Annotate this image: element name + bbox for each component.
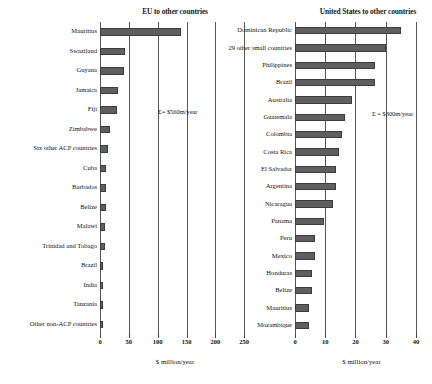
bar xyxy=(100,184,106,192)
category-label: Six other ACP countries xyxy=(33,145,97,152)
bar-row: Argentina xyxy=(295,183,428,191)
bar xyxy=(295,304,309,312)
category-label: Mexico xyxy=(272,253,292,260)
chart-panel-us: United States to other countries Dominic… xyxy=(196,0,432,384)
category-label: Tanzania xyxy=(73,301,97,308)
axis-tick-label: 0 xyxy=(98,338,101,345)
axis-tick-label: 0 xyxy=(293,338,296,345)
bar xyxy=(295,183,336,191)
bar xyxy=(100,204,106,212)
category-label: Jamaica xyxy=(76,87,97,94)
category-label: Other non-ACP countries xyxy=(30,321,97,328)
bar xyxy=(100,106,117,114)
category-label: Brazil xyxy=(276,79,292,86)
bar-row: Philippines xyxy=(295,62,428,70)
plot-area-us: Dominican Republic29 other small countri… xyxy=(295,22,428,334)
bar xyxy=(100,126,110,134)
category-label: Brazil xyxy=(81,262,97,269)
bar-row: Mozambique xyxy=(295,322,428,330)
category-label: Trinidad and Tobago xyxy=(42,243,97,250)
axis-tick-label: 150 xyxy=(182,338,192,345)
bar xyxy=(100,262,103,270)
bar xyxy=(100,243,105,251)
bar xyxy=(100,145,108,153)
category-label: Dominican Republic xyxy=(237,27,292,34)
bar xyxy=(295,235,315,243)
category-label: Colombia xyxy=(266,131,292,138)
category-label: Peru xyxy=(280,235,292,242)
category-label: Costa Rica xyxy=(263,149,292,156)
axis-tick-label: 50 xyxy=(126,338,133,345)
category-label: Australia xyxy=(268,97,292,104)
category-label: Argentina xyxy=(266,183,292,190)
bar xyxy=(295,27,401,35)
category-label: Belize xyxy=(80,204,97,211)
bar-row: Honduras xyxy=(295,270,428,278)
category-label: Nicaragua xyxy=(265,201,292,208)
bar xyxy=(295,287,312,295)
bar xyxy=(100,301,103,309)
category-label: Philippines xyxy=(262,62,292,69)
bar xyxy=(295,252,315,260)
bar xyxy=(100,28,181,36)
category-label: Cuba xyxy=(83,165,97,172)
category-label: Guatemala xyxy=(263,114,292,121)
bar xyxy=(295,114,345,122)
category-label: 29 other small countries xyxy=(228,45,292,52)
category-label: Belize xyxy=(275,287,292,294)
category-label: El Salvador xyxy=(261,166,292,173)
bar xyxy=(100,87,118,95)
category-label: Mauritius xyxy=(71,28,97,35)
bar xyxy=(295,62,375,70)
bar-row: Brazil xyxy=(295,79,428,87)
bar-row: Panama xyxy=(295,218,428,226)
bar-row: Belize xyxy=(295,287,428,295)
category-label: Barbados xyxy=(72,184,97,191)
bar xyxy=(295,218,324,226)
bar xyxy=(295,96,352,104)
category-label: Fiji xyxy=(88,106,97,113)
bar xyxy=(100,282,103,290)
chart-title-us: United States to other countries xyxy=(295,7,432,16)
bar-row: Colombia xyxy=(295,131,428,139)
bar xyxy=(295,166,336,174)
category-label: Mozambique xyxy=(257,322,292,329)
bar-rows-us: Dominican Republic29 other small countri… xyxy=(295,22,428,334)
bar xyxy=(295,200,333,208)
category-label: Honduras xyxy=(266,270,292,277)
bar xyxy=(295,44,386,52)
category-label: Zimbabwe xyxy=(69,126,97,133)
category-label: Guyana xyxy=(76,67,97,74)
axis-tick-label: 100 xyxy=(153,338,163,345)
x-axis-label-us: $ million/year xyxy=(295,358,428,365)
category-label: Malawi xyxy=(77,223,97,230)
category-label: Panama xyxy=(271,218,292,225)
axis-tick-label: 40 xyxy=(413,338,420,345)
bar xyxy=(295,322,309,330)
bar-row: Costa Rica xyxy=(295,148,428,156)
x-axis-us: 010203040 xyxy=(295,334,428,348)
bar xyxy=(100,48,125,56)
bar-row: Dominican Republic xyxy=(295,27,428,35)
axis-tick-label: 20 xyxy=(352,338,359,345)
bar-row: Australia xyxy=(295,96,428,104)
bar xyxy=(100,67,124,75)
bar xyxy=(100,321,103,329)
bar-row: 29 other small countries xyxy=(295,44,428,52)
bar-row: Peru xyxy=(295,235,428,243)
bar xyxy=(100,165,106,173)
figure-container: EU to other countries MauritiusSwaziland… xyxy=(0,0,432,384)
sum-annotation-eu: Σ= $560m/year xyxy=(158,108,197,115)
bar xyxy=(295,131,342,139)
category-label: Swaziland xyxy=(70,48,97,55)
axis-tick-label: 10 xyxy=(322,338,329,345)
bar-row: El Salvador xyxy=(295,166,428,174)
category-label: Mauritius xyxy=(266,305,292,312)
bar-row: Mauritius xyxy=(295,304,428,312)
axis-tick-label: 30 xyxy=(382,338,389,345)
bar xyxy=(295,148,339,156)
category-label: India xyxy=(83,282,97,289)
bar xyxy=(295,79,375,87)
sum-annotation-us: Σ = $300m/year xyxy=(372,110,413,117)
bar xyxy=(100,223,105,231)
